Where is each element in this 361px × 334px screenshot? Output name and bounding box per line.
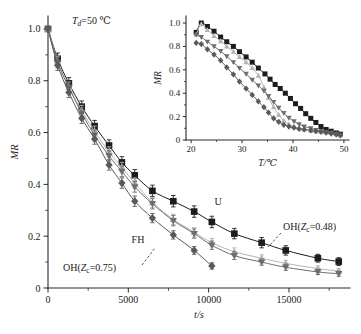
- data-point-marker: [273, 82, 278, 87]
- data-point-marker: [308, 116, 313, 121]
- y-tick-label: 0.8: [169, 41, 181, 51]
- inset-x-axis-title: T/℃: [258, 158, 277, 168]
- y-tick-label: 1.0: [28, 23, 41, 34]
- data-point-marker: [313, 120, 318, 125]
- mr-vs-time-chart: 050001000015000 00.20.40.60.81.0 t/s MR …: [0, 0, 361, 334]
- data-point-marker: [293, 101, 298, 106]
- data-point-marker: [224, 39, 229, 44]
- data-point-marker: [283, 91, 288, 96]
- inset-y-axis-title: MR: [153, 71, 163, 86]
- data-point-marker: [298, 106, 303, 111]
- y-tick-label: 0.2: [169, 112, 180, 122]
- data-point-marker: [335, 258, 342, 265]
- x-tick-label: 20: [187, 144, 197, 154]
- y-tick-label: 0.6: [28, 127, 41, 138]
- data-point-marker: [315, 255, 322, 262]
- x-tick-label: 30: [238, 144, 248, 154]
- x-tick-label: 0: [46, 294, 51, 305]
- main-y-tick-labels: 00.20.40.60.81.0: [28, 23, 41, 293]
- data-point-marker: [268, 77, 273, 82]
- y-tick-label: 0.4: [169, 88, 181, 98]
- inset-chart: 20304050 00.20.40.60.81.0 T/℃ MR: [152, 8, 358, 168]
- data-point-marker: [244, 54, 249, 59]
- x-tick-label: 50: [339, 144, 349, 154]
- data-point-marker: [191, 246, 198, 254]
- data-point-marker: [212, 29, 217, 34]
- data-point-marker: [335, 271, 342, 278]
- data-point-marker: [303, 111, 308, 116]
- main-x-tick-labels: 050001000015000: [46, 294, 302, 305]
- data-point-marker: [288, 96, 293, 101]
- data-point-marker: [170, 198, 177, 205]
- data-point-marker: [91, 135, 98, 143]
- y-tick-label: 0.6: [169, 65, 181, 75]
- leader-line-oh048: [268, 233, 281, 247]
- x-tick-label: 10000: [196, 294, 221, 305]
- data-point-marker: [105, 161, 112, 169]
- data-point-marker: [250, 60, 255, 65]
- main-y-axis-title: MR: [9, 144, 20, 161]
- data-point-marker: [278, 86, 283, 91]
- data-point-marker: [149, 188, 156, 195]
- annotation-drying-temperature: Td=50 ℃: [72, 15, 111, 28]
- data-point-marker: [256, 66, 261, 71]
- y-tick-label: 0.4: [28, 179, 41, 190]
- annotation-series-oh048: OH(Zc=0.48): [283, 221, 336, 234]
- y-tick-label: 0.8: [28, 75, 41, 86]
- leader-line-oh075: [142, 248, 155, 265]
- annotation-series-fh: FH: [132, 234, 145, 245]
- figure-container: 050001000015000 00.20.40.60.81.0 t/s MR …: [0, 0, 361, 334]
- data-point-marker: [231, 230, 238, 237]
- data-point-marker: [209, 219, 216, 226]
- data-point-marker: [237, 49, 242, 54]
- data-point-marker: [170, 231, 177, 239]
- data-point-marker: [318, 124, 323, 129]
- x-tick-label: 40: [288, 144, 298, 154]
- main-x-ticks: [48, 288, 329, 293]
- main-x-axis-title: t/s: [194, 309, 204, 320]
- data-point-marker: [258, 239, 265, 246]
- data-point-marker: [191, 208, 198, 215]
- x-tick-label: 5000: [118, 294, 138, 305]
- y-tick-label: 0.2: [28, 231, 41, 242]
- main-y-ticks: [44, 29, 49, 288]
- y-tick-label: 0: [36, 283, 41, 294]
- annotation-series-oh075: OH(Zc=0.75): [63, 262, 116, 275]
- y-tick-label: 0: [176, 135, 181, 145]
- y-tick-label: 1.0: [169, 18, 181, 28]
- x-tick-label: 15000: [276, 294, 301, 305]
- data-point-marker: [262, 71, 267, 76]
- annotation-series-u: U: [214, 196, 222, 207]
- data-point-marker: [282, 247, 289, 254]
- data-point-marker: [231, 44, 236, 49]
- data-point-marker: [208, 243, 215, 250]
